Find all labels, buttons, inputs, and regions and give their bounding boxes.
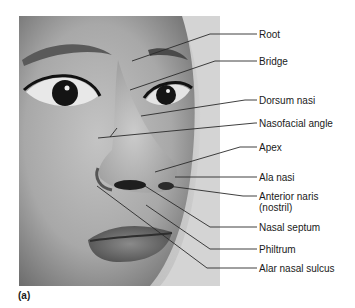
label-text: Philtrum [259,244,296,255]
label-dorsum-nasi: Dorsum nasi [259,95,315,106]
label-text: Bridge [259,56,288,67]
label-text: Nasal septum [259,222,320,233]
label-alar-nasal-sulcus: Alar nasal sulcus [259,263,335,274]
label-text: Nasofacial angle [259,118,333,129]
nose-anatomy-figure: RootBridgeDorsum nasiNasofacial angleApe… [0,0,355,308]
label-text: Anterior naris [259,191,318,202]
label-text-secondary: (nostril) [259,202,292,213]
label-root: Root [259,29,280,40]
label-text: Dorsum nasi [259,95,315,106]
label-ala-nasi: Ala nasi [259,172,295,183]
label-nasal-septum: Nasal septum [259,222,320,233]
label-text: Root [259,29,280,40]
label-nasofacial-angle: Nasofacial angle [259,118,333,129]
label-anterior-naris: Anterior naris(nostril) [259,191,318,213]
panel-label: (a) [18,290,30,301]
face-photo [0,0,355,308]
label-text: Apex [259,142,282,153]
label-text: Alar nasal sulcus [259,263,335,274]
label-bridge: Bridge [259,56,288,67]
label-philtrum: Philtrum [259,244,296,255]
label-apex: Apex [259,142,282,153]
label-text: Ala nasi [259,172,295,183]
